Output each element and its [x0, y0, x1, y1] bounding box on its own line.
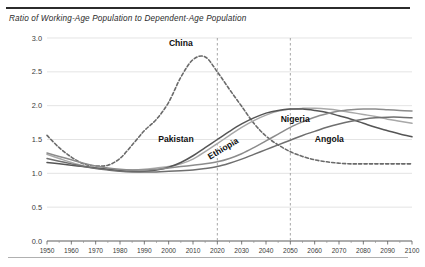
series-label-pakistan: Pakistan: [158, 134, 193, 144]
y-tick-label: 3.0: [32, 34, 42, 43]
x-tick-label: 2050: [283, 247, 298, 254]
line-chart-plot: 0.00.51.01.52.02.53.0 195019601970198019…: [0, 0, 425, 267]
chart-page: Ratio of Working-Age Population to Depen…: [0, 0, 425, 267]
x-tick-label: 2090: [380, 247, 395, 254]
x-tick-label: 2080: [356, 247, 371, 254]
series-label-angola: Angola: [315, 134, 344, 144]
x-tick-label: 2000: [161, 247, 176, 254]
x-axis-tick-labels: 1950196019701980199020002010202020302040…: [40, 241, 420, 254]
y-tick-label: 2.5: [32, 67, 42, 76]
y-tick-label: 1.5: [32, 135, 42, 144]
x-tick-label: 2020: [210, 247, 225, 254]
x-tick-label: 1980: [113, 247, 128, 254]
x-tick-label: 2010: [186, 247, 201, 254]
x-tick-label: 2030: [234, 247, 249, 254]
series-annotations-group: ChinaPakistanEthiopiaNigeriaAngola: [158, 38, 344, 161]
series-label-china: China: [169, 38, 193, 48]
x-tick-label: 1990: [137, 247, 152, 254]
data-series-group: [47, 56, 412, 172]
x-tick-label: 1970: [88, 247, 103, 254]
bottom-divider-rule: [8, 257, 408, 258]
y-axis-tick-labels: 0.00.51.01.52.02.53.0: [32, 34, 42, 246]
series-label-nigeria: Nigeria: [281, 114, 310, 124]
y-tick-label: 1.0: [32, 169, 42, 178]
x-tick-label: 1960: [64, 247, 79, 254]
x-tick-label: 2060: [307, 247, 322, 254]
x-tick-label: 2100: [405, 247, 420, 254]
y-tick-label: 2.0: [32, 101, 42, 110]
y-tick-label: 0.5: [32, 203, 42, 212]
x-tick-label: 1950: [40, 247, 55, 254]
y-tick-label: 0.0: [32, 237, 42, 246]
x-tick-label: 2040: [259, 247, 274, 254]
x-tick-label: 2070: [332, 247, 347, 254]
